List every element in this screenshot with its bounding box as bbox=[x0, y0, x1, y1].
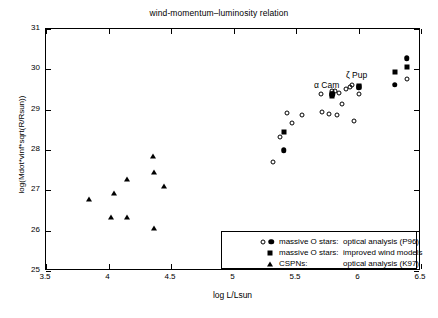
y-tick-27 bbox=[46, 190, 51, 191]
legend-symbol-filled-square bbox=[268, 250, 273, 255]
data-point-filled-circle bbox=[404, 56, 410, 62]
data-point-open-circle bbox=[326, 111, 331, 116]
legend-desc-1: improved wind models bbox=[343, 247, 423, 258]
y-tick-label-31: 31 bbox=[31, 24, 40, 32]
x-tick-4.5 bbox=[171, 264, 172, 269]
data-point-open-circle bbox=[299, 113, 304, 118]
data-point-filled-triangle bbox=[86, 197, 92, 202]
data-point-filled-triangle bbox=[124, 214, 130, 219]
x-tick-6.5 bbox=[421, 264, 422, 269]
y-tick-28 bbox=[46, 150, 51, 151]
y-axis-label: log(Mdot*vinf*sqrt(R/Rsun)) bbox=[17, 45, 26, 245]
x-tick-top-5 bbox=[234, 29, 235, 34]
y-tick-right-30 bbox=[414, 69, 419, 70]
x-tick-label-5: 5 bbox=[218, 273, 248, 281]
data-point-filled-triangle bbox=[151, 225, 157, 230]
data-point-open-circle bbox=[404, 77, 409, 82]
legend-desc-2: optical analysis (K97) bbox=[343, 258, 419, 269]
x-tick-3.5 bbox=[46, 264, 47, 269]
y-tick-right-29 bbox=[414, 110, 419, 111]
data-point-open-circle bbox=[319, 91, 324, 96]
data-point-open-circle bbox=[350, 82, 355, 87]
y-tick-label-30: 30 bbox=[31, 64, 40, 72]
x-tick-label-4.5: 4.5 bbox=[155, 273, 185, 281]
y-tick-30 bbox=[46, 69, 51, 70]
data-point-open-circle bbox=[270, 160, 275, 165]
x-tick-top-5.5 bbox=[296, 29, 297, 34]
data-point-filled-triangle bbox=[111, 191, 117, 196]
data-point-filled-triangle bbox=[124, 177, 130, 182]
legend-symbol-open-circle bbox=[261, 239, 266, 244]
data-point-filled-square bbox=[330, 93, 335, 98]
annotation-alpha-cam: α Cam bbox=[314, 80, 339, 90]
y-tick-26 bbox=[46, 231, 51, 232]
x-tick-label-6: 6 bbox=[343, 273, 373, 281]
y-tick-label-28: 28 bbox=[31, 145, 40, 153]
x-tick-label-3.5: 3.5 bbox=[30, 273, 60, 281]
y-tick-29 bbox=[46, 110, 51, 111]
y-tick-label-29: 29 bbox=[31, 105, 40, 113]
data-point-filled-square bbox=[357, 85, 362, 90]
data-point-open-circle bbox=[320, 110, 325, 115]
legend-symbol-filled-triangle bbox=[267, 261, 273, 266]
legend-label-0: massive O stars: bbox=[279, 236, 339, 247]
chart-title: wind-momentum–luminosity relation bbox=[0, 8, 438, 18]
data-point-filled-triangle bbox=[151, 169, 157, 174]
legend-row-1: massive O stars:improved wind models bbox=[222, 247, 416, 258]
y-tick-right-27 bbox=[414, 190, 419, 191]
data-point-open-circle bbox=[337, 91, 342, 96]
data-point-filled-square bbox=[392, 70, 397, 75]
x-tick-4 bbox=[109, 264, 110, 269]
plot-frame: α Camζ Pup massive O stars:optical analy… bbox=[45, 28, 420, 270]
legend-row-0: massive O stars:optical analysis (P96) bbox=[222, 236, 416, 247]
legend-row-2: CSPNs:optical analysis (K97) bbox=[222, 258, 416, 269]
data-point-filled-triangle bbox=[108, 214, 114, 219]
x-tick-label-6.5: 6.5 bbox=[405, 273, 435, 281]
figure-canvas: wind-momentum–luminosity relation α Camζ… bbox=[0, 0, 438, 318]
annotation-zeta-pup: ζ Pup bbox=[346, 70, 367, 80]
legend-label-2: CSPNs: bbox=[279, 258, 307, 269]
y-tick-right-28 bbox=[414, 150, 419, 151]
data-point-filled-square bbox=[281, 129, 286, 134]
x-tick-label-5.5: 5.5 bbox=[280, 273, 310, 281]
legend-label-1: massive O stars: bbox=[279, 247, 339, 258]
y-tick-right-31 bbox=[414, 29, 419, 30]
legend-desc-0: optical analysis (P96) bbox=[343, 236, 419, 247]
x-tick-top-4 bbox=[109, 29, 110, 34]
x-tick-top-4.5 bbox=[171, 29, 172, 34]
data-point-filled-triangle bbox=[150, 154, 156, 159]
data-point-filled-circle bbox=[281, 148, 287, 154]
data-point-open-circle bbox=[356, 91, 361, 96]
data-point-filled-circle bbox=[392, 82, 398, 88]
data-point-open-circle bbox=[290, 120, 295, 125]
x-tick-top-3.5 bbox=[46, 29, 47, 34]
chart-legend: massive O stars:optical analysis (P96)ma… bbox=[221, 231, 417, 269]
x-axis-label: log L/Lsun bbox=[45, 290, 420, 300]
legend-symbol-filled-circle bbox=[268, 239, 274, 245]
y-tick-label-26: 26 bbox=[31, 226, 40, 234]
data-point-open-circle bbox=[278, 134, 283, 139]
data-point-open-circle bbox=[352, 119, 357, 124]
y-tick-label-27: 27 bbox=[31, 185, 40, 193]
data-point-filled-square bbox=[404, 64, 409, 69]
x-tick-top-6.5 bbox=[421, 29, 422, 34]
data-point-open-circle bbox=[335, 112, 340, 117]
x-tick-label-4: 4 bbox=[93, 273, 123, 281]
data-point-open-circle bbox=[339, 101, 344, 106]
data-point-filled-triangle bbox=[161, 183, 167, 188]
data-point-open-circle bbox=[284, 110, 289, 115]
x-tick-top-6 bbox=[359, 29, 360, 34]
